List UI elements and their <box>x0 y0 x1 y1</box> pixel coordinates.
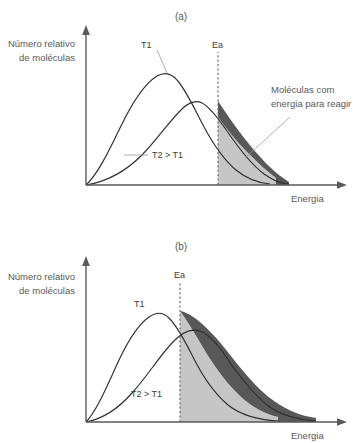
y-axis-label-line2-b: de moléculas <box>19 285 75 296</box>
ea-label-b: Ea <box>174 270 185 280</box>
curve-label-t2-a: T2 > T1 <box>152 150 183 160</box>
ea-label-a: Ea <box>212 40 223 50</box>
chart-b-svg: (b) Número relativo de moléculas Energia… <box>0 221 353 443</box>
x-axis-label-a: Energia <box>291 193 324 204</box>
chart-panel-a: (a) Número relativo de moléculas Energia… <box>0 0 353 221</box>
x-axis-arrow-b <box>337 418 347 426</box>
y-axis-label-line1-b: Número relativo <box>8 271 75 282</box>
leader-line-t1-a <box>157 50 167 73</box>
chart-panel-b: (b) Número relativo de moléculas Energia… <box>0 221 353 443</box>
x-axis-arrow-a <box>337 181 347 189</box>
annotation-line2-a: energia para reagir <box>271 98 351 109</box>
curve-label-t1-b: T1 <box>134 299 145 309</box>
leader-line-annotation-a <box>245 117 290 158</box>
panel-title-a: (a) <box>175 11 187 22</box>
curve-label-t1-a: T1 <box>141 40 152 50</box>
x-axis-label-b: Energia <box>291 430 324 441</box>
annotation-line1-a: Moléculas com <box>271 84 334 95</box>
panel-title-b: (b) <box>175 241 187 252</box>
y-axis-arrow-a <box>82 25 90 35</box>
chart-a-svg: (a) Número relativo de moléculas Energia… <box>0 0 353 221</box>
y-axis-label-line2-a: de moléculas <box>19 52 75 63</box>
y-axis-arrow-b <box>82 256 90 266</box>
y-axis-label-line1-a: Número relativo <box>8 38 75 49</box>
curve-label-t2-b: T2 > T1 <box>131 389 162 399</box>
